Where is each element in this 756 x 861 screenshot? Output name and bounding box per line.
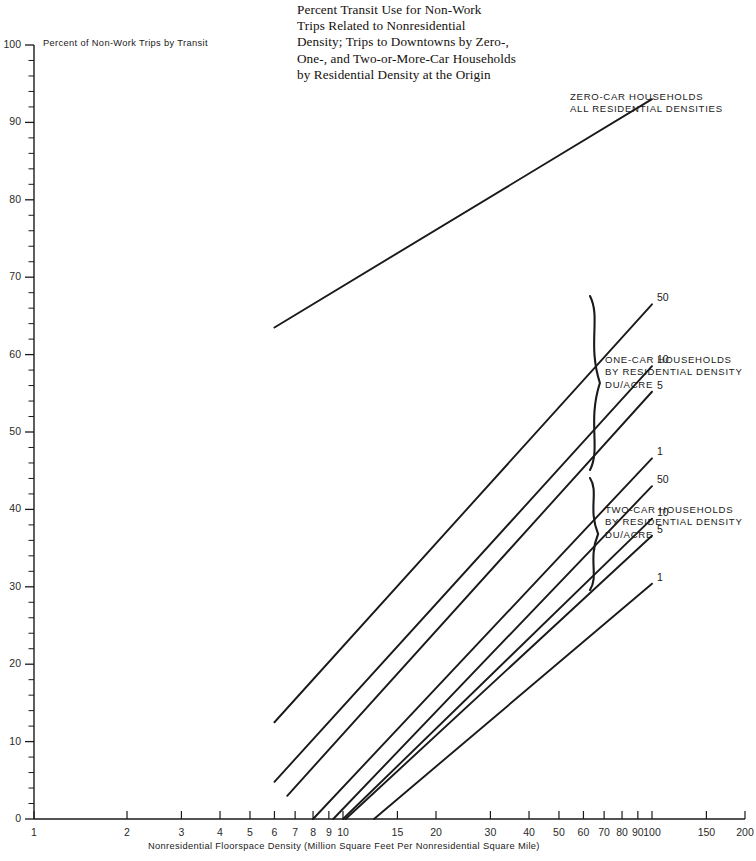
y-tick-label: 70	[0, 270, 21, 282]
series-line	[274, 99, 652, 327]
series-line	[313, 458, 652, 819]
series-point-label: 5	[657, 523, 663, 535]
annotation-two-car: TWO-CAR HOUSEHOLDS BY RESIDENTIAL DENSIT…	[605, 504, 743, 541]
axes-group	[25, 45, 745, 819]
x-tick-label: 20	[422, 826, 450, 838]
annotation-line: BY RESIDENTIAL DENSITY	[605, 516, 743, 528]
x-tick-label: 2	[113, 826, 141, 838]
x-tick-label: 4	[206, 826, 234, 838]
annotation-line: DU/ACRE	[605, 529, 743, 541]
title-line: One-, and Two-or-More-Car Households	[297, 51, 597, 67]
y-tick-label: 60	[0, 348, 21, 360]
annotation-line: ALL RESIDENTIAL DENSITIES	[570, 103, 723, 115]
y-tick-label: 20	[0, 657, 21, 669]
y-tick-label: 90	[0, 115, 21, 127]
series-point-label: 10	[657, 506, 669, 518]
x-tick-label: 3	[167, 826, 195, 838]
annotation-line: DU/ACRE	[605, 379, 743, 391]
chart-figure: Percent Transit Use for Non-Work Trips R…	[0, 0, 756, 861]
y-axis-label: Percent of Non-Work Trips by Transit	[43, 38, 208, 48]
y-tick-label: 30	[0, 580, 21, 592]
series-point-label: 5	[657, 379, 663, 391]
x-tick-label: 150	[692, 826, 720, 838]
x-tick-label: 100	[638, 826, 666, 838]
series-point-label: 1	[657, 571, 663, 583]
series-line	[374, 584, 652, 819]
annotation-line: ONE-CAR HOUSEHOLDS	[605, 354, 743, 366]
series-line	[346, 536, 652, 819]
group-brace	[590, 296, 600, 470]
y-tick-label: 10	[0, 735, 21, 747]
chart-title: Percent Transit Use for Non-Work Trips R…	[297, 2, 597, 83]
x-tick-label: 30	[476, 826, 504, 838]
x-tick-label: 1	[20, 826, 48, 838]
title-line: by Residential Density at the Origin	[297, 67, 597, 83]
annotation-zero-car: ZERO-CAR HOUSEHOLDS ALL RESIDENTIAL DENS…	[570, 91, 723, 116]
x-tick-label: 200	[731, 826, 756, 838]
annotation-line: ZERO-CAR HOUSEHOLDS	[570, 91, 723, 103]
title-line: Density; Trips to Downtowns by Zero-,	[297, 34, 597, 50]
x-tick-label: 10	[329, 826, 357, 838]
title-line: Percent Transit Use for Non-Work	[297, 2, 597, 18]
annotation-line: TWO-CAR HOUSEHOLDS	[605, 504, 743, 516]
plot-canvas	[0, 0, 756, 861]
y-tick-label: 80	[0, 193, 21, 205]
series-point-label: 50	[657, 291, 669, 303]
x-axis-label: Nonresidential Floorspace Density (Milli…	[148, 841, 540, 851]
series-point-label: 50	[657, 473, 669, 485]
series-line	[287, 392, 652, 796]
series-point-label: 1	[657, 445, 663, 457]
series-point-label: 10	[657, 353, 669, 365]
x-tick-label: 40	[515, 826, 543, 838]
y-tick-label: 100	[0, 38, 21, 50]
annotation-line: BY RESIDENTIAL DENSITY	[605, 366, 743, 378]
title-line: Trips Related to Nonresidential	[297, 18, 597, 34]
y-tick-label: 0	[0, 812, 21, 824]
y-tick-label: 50	[0, 425, 21, 437]
x-tick-label: 15	[383, 826, 411, 838]
brace-group	[590, 296, 600, 590]
y-tick-label: 40	[0, 502, 21, 514]
annotation-one-car: ONE-CAR HOUSEHOLDS BY RESIDENTIAL DENSIT…	[605, 354, 743, 391]
data-curves-group	[274, 99, 652, 819]
